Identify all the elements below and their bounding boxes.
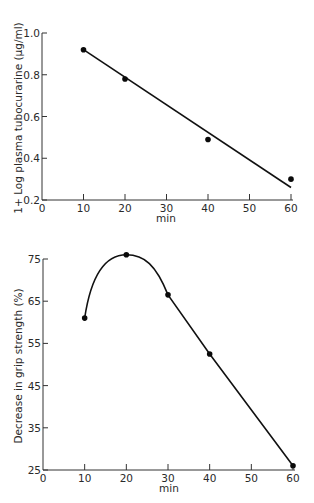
y-tick-label: 45 [28, 380, 41, 392]
y-tick-label: 0.6 [23, 111, 40, 123]
data-point [205, 137, 211, 143]
data-point [207, 351, 213, 357]
data-point [81, 47, 87, 53]
grip-strength-chart: 2535455565750102030405060 [28, 252, 300, 484]
y-tick-label: 0.8 [23, 69, 40, 81]
x-tick-label: 50 [245, 472, 258, 484]
grip-strength-curve [85, 255, 293, 466]
y-tick-label: 0.2 [23, 194, 40, 206]
data-point [165, 292, 171, 298]
x-tick-label: 40 [201, 202, 214, 214]
x-tick-label: 60 [284, 202, 297, 214]
data-point [290, 463, 296, 469]
y-tick-label: 55 [28, 337, 41, 349]
data-point [122, 76, 128, 82]
x-tick-label: 0 [40, 472, 47, 484]
figure: 0.20.40.60.81.00102030405060 1+ Log plas… [0, 0, 314, 503]
top-x-axis-label: min [156, 212, 176, 224]
data-point [288, 176, 294, 182]
x-tick-label: 40 [203, 472, 216, 484]
bottom-y-axis-label: Decrease in grip strength (%) [12, 288, 24, 443]
x-tick-label: 20 [120, 472, 133, 484]
regression-line [84, 50, 292, 188]
y-tick-label: 75 [28, 253, 41, 265]
data-point [124, 252, 130, 258]
y-tick-label: 1.0 [23, 27, 40, 39]
x-tick-label: 60 [286, 472, 299, 484]
y-tick-label: 35 [28, 422, 41, 434]
x-tick-label: 10 [78, 472, 91, 484]
y-tick-label: 65 [28, 295, 41, 307]
data-point [82, 315, 88, 321]
x-tick-label: 0 [39, 202, 46, 214]
top-y-axis-label: 1+ Log plasma tubocurarine (µg/ml) [12, 22, 24, 213]
y-tick-label: 0.4 [23, 152, 40, 164]
bottom-x-axis-label: min [159, 482, 179, 494]
x-tick-label: 20 [118, 202, 131, 214]
plasma-tubocurarine-chart: 0.20.40.60.81.00102030405060 [23, 27, 297, 214]
x-tick-label: 50 [243, 202, 256, 214]
x-tick-label: 10 [77, 202, 90, 214]
